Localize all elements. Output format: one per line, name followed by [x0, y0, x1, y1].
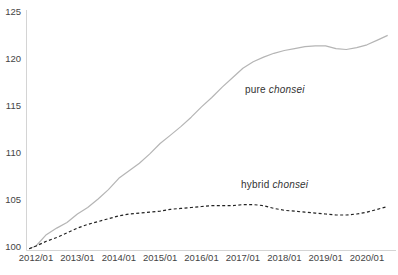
- pure-chonsei-label-italic: chonsei: [269, 84, 305, 95]
- hybrid-chonsei-label-prefix: hybrid: [241, 179, 272, 190]
- y-tick-label: 125: [5, 6, 21, 17]
- x-tick-label: 2012/01: [19, 252, 53, 263]
- hybrid-chonsei-label-italic: chonsei: [272, 179, 308, 190]
- y-tick-label: 120: [5, 53, 21, 64]
- x-tick-label: 2017/01: [226, 252, 260, 263]
- x-tick-label: 2013/01: [60, 252, 94, 263]
- y-tick-label: 110: [6, 147, 21, 158]
- x-tick-label: 2019/01: [308, 252, 342, 263]
- y-tick-label: 100: [5, 241, 21, 252]
- x-tick-label: 2016/01: [184, 252, 218, 263]
- x-tick-label: 2020/01: [350, 252, 384, 263]
- x-tick-label: 2015/01: [143, 252, 177, 263]
- hybrid-chonsei-label: hybrid chonsei: [241, 179, 308, 190]
- chart-svg: 1001051101151201252012/012013/012014/012…: [0, 0, 398, 275]
- y-tick-label: 115: [6, 100, 21, 111]
- pure-chonsei-line: [29, 35, 388, 248]
- pure-chonsei-label: pure chonsei: [245, 84, 305, 95]
- pure-chonsei-label-prefix: pure: [245, 84, 269, 95]
- chart: 1001051101151201252012/012013/012014/012…: [0, 0, 398, 275]
- x-tick-label: 2014/01: [102, 252, 136, 263]
- x-tick-label: 2018/01: [267, 252, 301, 263]
- y-tick-label: 105: [5, 194, 21, 205]
